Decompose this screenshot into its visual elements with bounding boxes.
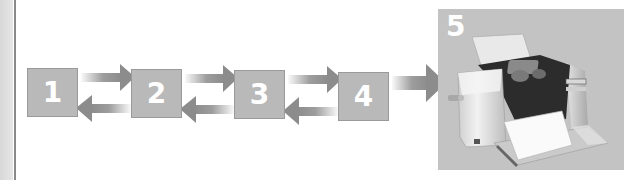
photo-printer-icon — [438, 9, 624, 170]
step-box-4: 4 — [338, 72, 389, 121]
step-number: 2 — [147, 80, 166, 108]
arrow-4-to-3 — [283, 97, 338, 125]
step-box-1: 1 — [27, 68, 78, 117]
step-box-3: 3 — [234, 70, 285, 119]
step-number: 4 — [354, 83, 373, 111]
step-number: 5 — [446, 13, 465, 41]
arrow-1-to-2 — [81, 64, 135, 91]
arrow-3-to-4 — [288, 66, 342, 93]
arrow-3-to-2 — [180, 96, 234, 123]
step-number: 3 — [250, 81, 269, 109]
arrow-2-to-1 — [76, 95, 131, 122]
step-panel-5: 5 — [438, 9, 624, 170]
step-box-2: 2 — [131, 69, 182, 118]
arrow-2-to-3 — [185, 65, 238, 92]
step-number: 1 — [43, 79, 62, 107]
